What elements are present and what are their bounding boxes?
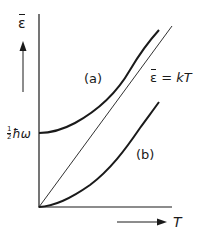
classical-line-kT <box>39 26 172 207</box>
zero-point-energy-label: 1 2 ħω <box>7 126 31 141</box>
curve-b-label: (b) <box>136 148 154 161</box>
y-axis-label: ε <box>18 16 26 30</box>
x-direction-arrow-icon <box>117 219 167 226</box>
energy-temperature-diagram: ε 1 2 ħω (a) ε = kT (b) T <box>0 0 198 237</box>
plot-area <box>0 0 198 237</box>
one-half-fraction: 1 2 <box>7 126 11 141</box>
kT-line-label: ε = kT <box>150 71 192 84</box>
curve-a-label: (a) <box>84 72 102 85</box>
y-direction-arrow-icon <box>20 41 27 92</box>
epsilon-bar-symbol: ε <box>18 16 26 30</box>
x-axis-label: T <box>173 215 182 229</box>
